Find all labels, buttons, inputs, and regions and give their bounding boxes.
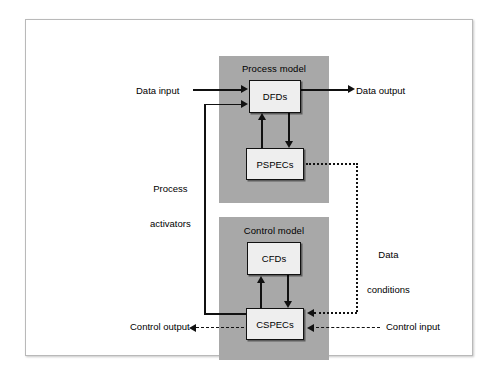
label-data-conditions-line2: conditions (367, 284, 410, 296)
node-pspecs-label: PSPECs (257, 159, 294, 170)
cspecs-to-cfds-line (260, 282, 262, 309)
process-activators-arrowhead (241, 100, 248, 108)
dfds-to-pspecs-arrowhead (285, 141, 293, 148)
page-frame: Process model Control model (25, 19, 473, 356)
pspecs-to-dfds-arrowhead (258, 113, 266, 120)
data-input-line (193, 89, 242, 91)
label-data-input: Data input (136, 85, 179, 97)
data-output-line (301, 89, 350, 91)
node-dfds[interactable]: DFDs (249, 80, 301, 113)
control-input-line (316, 327, 380, 328)
label-control-input: Control input (386, 321, 440, 333)
label-process-activators-line1: Process (150, 183, 191, 195)
control-output-line (196, 327, 244, 328)
node-dfds-label: DFDs (263, 91, 287, 102)
cspecs-to-cfds-arrowhead (257, 276, 265, 283)
label-data-conditions: Data conditions (367, 226, 410, 318)
label-process-activators: Process activators (150, 160, 191, 252)
control-output-arrowhead (189, 324, 196, 332)
diagram-screen: Process model Control model (0, 0, 499, 373)
label-data-output: Data output (356, 85, 405, 97)
data-input-arrowhead (241, 85, 248, 93)
process-model-title: Process model (219, 63, 329, 74)
label-control-output: Control output (130, 321, 190, 333)
process-activators-vertical-segment (204, 104, 206, 315)
data-output-arrowhead (348, 85, 355, 93)
data-conditions-top-segment (306, 163, 358, 165)
data-conditions-vertical-segment (356, 163, 358, 312)
node-cspecs[interactable]: CSPECs (246, 308, 304, 340)
node-cspecs-label: CSPECs (256, 319, 293, 330)
data-conditions-bottom-segment (314, 312, 357, 314)
data-conditions-arrowhead (307, 309, 314, 317)
label-process-activators-line2: activators (150, 218, 191, 230)
control-input-arrowhead (307, 324, 314, 332)
cfds-to-cspecs-line (287, 275, 289, 301)
label-data-conditions-line1: Data (367, 249, 410, 261)
node-cfds[interactable]: CFDs (247, 242, 301, 275)
process-activators-top-segment (204, 104, 242, 106)
process-activators-bottom-segment (204, 313, 247, 315)
cfds-to-cspecs-arrowhead (284, 301, 292, 308)
node-pspecs[interactable]: PSPECs (246, 148, 304, 180)
dfds-to-pspecs-line (288, 113, 290, 142)
node-cfds-label: CFDs (262, 253, 286, 264)
pspecs-to-dfds-line (261, 119, 263, 149)
control-model-title: Control model (219, 225, 329, 236)
process-model-panel: Process model (219, 56, 329, 203)
